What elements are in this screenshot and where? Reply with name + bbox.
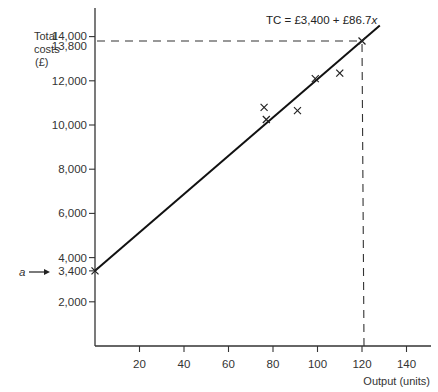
axes — [95, 8, 431, 346]
x-tick-label: 140 — [397, 358, 416, 370]
x-tick-label: 40 — [178, 358, 191, 370]
x-tick-label: 80 — [267, 358, 280, 370]
regression-line — [95, 26, 380, 271]
y-axis-title-line-3: (£) — [35, 56, 48, 68]
x-tick-label: 60 — [222, 358, 235, 370]
dashed-guides — [97, 41, 364, 346]
y-tick-label: 6,000 — [58, 207, 87, 219]
intercept-label: a — [19, 266, 25, 278]
x-axis-title: Output (units) — [363, 375, 430, 387]
y-tick-label: 10,000 — [52, 119, 87, 131]
y-tick-label: 12,000 — [52, 75, 87, 87]
x-marker-icon — [336, 70, 343, 77]
fitted-line — [95, 26, 380, 271]
x-marker-icon — [294, 107, 301, 114]
y-tick-label: 8,000 — [58, 163, 87, 175]
x-marker-icon — [359, 38, 366, 45]
equation-variable: x — [371, 14, 379, 26]
y-tick-label: 2,000 — [58, 296, 87, 308]
x-marker-icon — [263, 116, 270, 123]
y-axis-ticks: 2,0003,4004,0006,0008,00010,00012,00013,… — [52, 30, 95, 308]
cost-chart: 2,0003,4004,0006,0008,00010,00012,00013,… — [0, 0, 438, 392]
x-tick-label: 100 — [308, 358, 327, 370]
y-tick-label: 4,000 — [58, 252, 87, 264]
y-axis-title-line-2: costs — [34, 43, 60, 55]
x-marker-icon — [261, 104, 268, 111]
y-tick-label: 3,400 — [58, 265, 87, 277]
dashed-guide-line — [362, 41, 364, 346]
x-axis-ticks: 20406080100120140 — [133, 346, 416, 370]
x-tick-label: 120 — [352, 358, 371, 370]
x-tick-label: 20 — [133, 358, 146, 370]
equation-label: TC = £3,400 + £86.7x — [266, 14, 379, 26]
arrow-right-icon — [29, 269, 50, 275]
equation-text: TC = £3,400 + £86.7 — [266, 14, 372, 26]
y-axis-title-line-1: Total — [34, 30, 57, 42]
